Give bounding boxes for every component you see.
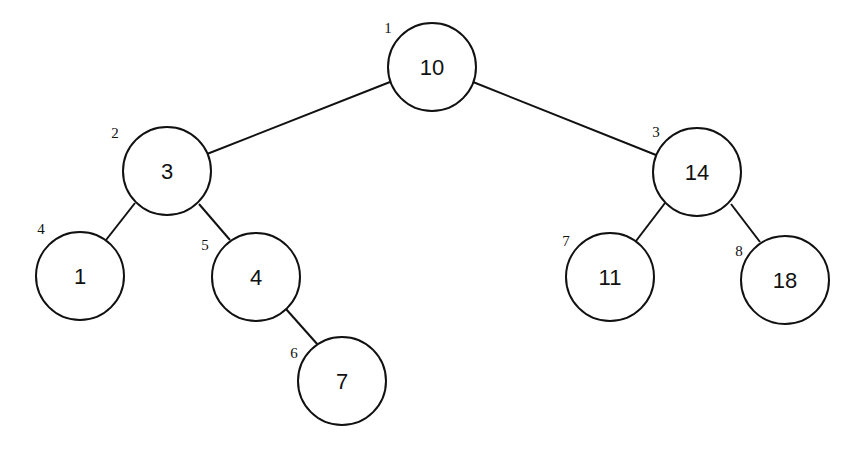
node-value: 18 (773, 268, 797, 293)
tree-node: 45 (201, 233, 300, 321)
node-index-label: 3 (652, 124, 660, 140)
node-index-label: 5 (201, 237, 209, 253)
node-value: 14 (685, 160, 709, 185)
tree-edge-n2-n5 (199, 204, 230, 240)
tree-edges (106, 82, 760, 345)
tree-edge-n1-n2 (207, 82, 390, 154)
tree-edge-n3-n7 (636, 203, 665, 241)
tree-node: 76 (290, 337, 386, 425)
tree-node: 14 (36, 221, 124, 320)
tree-edge-n2-n4 (106, 203, 135, 240)
node-index-label: 2 (111, 125, 119, 141)
node-index-label: 1 (384, 20, 392, 36)
node-value: 3 (161, 159, 173, 184)
node-value: 4 (250, 265, 262, 290)
node-value: 1 (74, 264, 86, 289)
tree-node: 101 (384, 20, 476, 111)
node-index-label: 6 (290, 345, 298, 361)
binary-tree-diagram: 10132143144576117188 (0, 0, 858, 449)
node-value: 10 (420, 55, 444, 80)
tree-edge-n5-n6 (286, 309, 318, 345)
tree-edge-n3-n8 (731, 204, 760, 242)
tree-node: 117 (562, 233, 654, 321)
node-index-label: 4 (37, 221, 45, 237)
tree-node: 143 (652, 124, 741, 216)
tree-node: 32 (111, 125, 211, 215)
node-value: 11 (599, 265, 622, 290)
node-index-label: 7 (562, 233, 570, 249)
node-value: 7 (336, 369, 348, 394)
tree-edge-n1-n3 (473, 82, 656, 155)
tree-node: 188 (735, 236, 829, 324)
node-index-label: 8 (735, 243, 743, 259)
tree-nodes: 10132143144576117188 (36, 20, 829, 425)
